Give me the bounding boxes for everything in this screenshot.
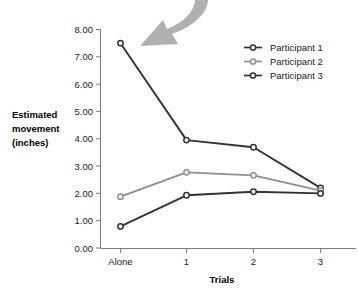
data-point-marker[interactable] — [251, 145, 256, 150]
x-axis-tick-labels: Alone 1 2 3 — [108, 256, 323, 267]
legend-label: Participant 1 — [270, 42, 323, 53]
line-chart: 8.00 7.00 6.00 5.00 4.00 3.00 2.00 1.00 … — [0, 0, 358, 295]
y-tick-label: 0.00 — [75, 243, 94, 254]
y-axis-title-line3: (inches) — [12, 137, 48, 148]
data-point-marker[interactable] — [184, 170, 189, 175]
y-tick-label: 4.00 — [75, 133, 94, 144]
y-tick-label: 8.00 — [75, 24, 94, 35]
x-tick-label: Alone — [108, 256, 132, 267]
series-2 — [118, 170, 323, 200]
data-point-marker[interactable] — [251, 173, 256, 178]
y-tick-label: 1.00 — [75, 215, 94, 226]
y-tick-label: 3.00 — [75, 161, 94, 172]
y-axis-tick-labels: 8.00 7.00 6.00 5.00 4.00 3.00 2.00 1.00 … — [75, 24, 94, 254]
x-axis-ticks — [121, 249, 321, 254]
data-point-marker[interactable] — [118, 40, 123, 45]
legend-item-participant-3[interactable]: Participant 3 — [244, 70, 323, 81]
y-axis-title-line1: Estimated — [12, 109, 58, 120]
callout-arrow — [140, 0, 208, 46]
y-axis-ticks — [96, 30, 101, 249]
y-tick-label: 7.00 — [75, 51, 94, 62]
data-point-marker[interactable] — [318, 191, 323, 196]
data-point-marker[interactable] — [184, 137, 189, 142]
data-point-marker[interactable] — [118, 224, 123, 229]
y-axis-title-line2: movement — [12, 123, 60, 134]
legend-marker-icon — [250, 59, 255, 64]
legend-label: Participant 3 — [270, 70, 323, 81]
y-tick-label: 6.00 — [75, 79, 94, 90]
legend-item-participant-2[interactable]: Participant 2 — [244, 56, 323, 67]
x-tick-label: 1 — [184, 256, 189, 267]
x-tick-label: 2 — [251, 256, 256, 267]
legend-label: Participant 2 — [270, 56, 323, 67]
legend-marker-icon — [250, 73, 255, 78]
y-tick-label: 5.00 — [75, 106, 94, 117]
data-point-marker[interactable] — [184, 193, 189, 198]
x-axis-title: Trials — [210, 274, 235, 285]
y-axis-title: Estimated movement (inches) — [12, 109, 60, 148]
y-tick-label: 2.00 — [75, 188, 94, 199]
legend: Participant 1 Participant 2 Participant … — [244, 42, 323, 81]
data-series-layer — [118, 40, 323, 229]
data-point-marker[interactable] — [251, 189, 256, 194]
series-3 — [118, 189, 323, 229]
legend-item-participant-1[interactable]: Participant 1 — [244, 42, 323, 53]
legend-marker-icon — [250, 45, 255, 50]
x-tick-label: 3 — [318, 256, 323, 267]
data-point-marker[interactable] — [118, 194, 123, 199]
series-line — [121, 192, 321, 227]
chart-canvas: 8.00 7.00 6.00 5.00 4.00 3.00 2.00 1.00 … — [0, 0, 358, 295]
